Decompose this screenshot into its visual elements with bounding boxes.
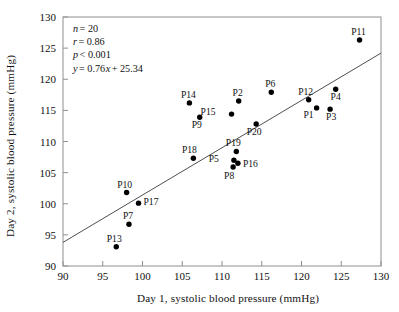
- data-point-label: P10: [117, 179, 132, 190]
- data-point-label: P17: [144, 196, 159, 207]
- data-point-label: P13: [107, 233, 122, 244]
- data-point-label: P7: [123, 210, 133, 221]
- data-point-label: P15: [201, 106, 216, 117]
- data-point-marker: [314, 105, 319, 110]
- y-tick-label: 125: [40, 42, 57, 54]
- data-point: P20: [247, 121, 262, 137]
- data-point: P10: [117, 179, 132, 196]
- data-point-label: P11: [351, 26, 366, 37]
- data-point-marker: [306, 97, 311, 102]
- data-point: P8: [224, 164, 236, 181]
- y-tick-label: 110: [40, 136, 57, 148]
- data-point-label: P19: [226, 137, 241, 148]
- x-tick-label: 125: [333, 270, 350, 282]
- data-point-label: P20: [247, 126, 262, 137]
- data-point-label: P14: [181, 89, 196, 100]
- y-tick-label: 95: [45, 229, 57, 241]
- x-tick-label: 115: [254, 270, 271, 282]
- scatter-plot-figure: 9095100105110115120125130 90951001051101…: [0, 0, 399, 312]
- x-tick-label: 90: [58, 270, 70, 282]
- x-tick-label: 130: [373, 270, 390, 282]
- data-point: P2: [233, 87, 243, 104]
- data-point: P4: [331, 87, 341, 103]
- data-point: P1: [304, 105, 320, 120]
- x-tick-label: 100: [134, 270, 151, 282]
- stat-equation: y= 0.76x+ 25.34: [72, 63, 143, 74]
- y-tick-label: 120: [40, 73, 57, 85]
- stat-r: r= 0.86: [73, 36, 105, 47]
- data-point-label: P16: [243, 158, 258, 169]
- y-tick-label: 100: [40, 198, 57, 210]
- stat-n: n= 20: [73, 23, 98, 34]
- data-point-marker: [269, 90, 274, 95]
- data-point-marker: [236, 98, 241, 103]
- data-point-marker: [357, 37, 362, 42]
- data-point: P15: [201, 106, 235, 117]
- y-tick-label: 115: [40, 104, 57, 116]
- y-tick-label: 130: [40, 11, 57, 23]
- y-tick-label: 105: [40, 167, 57, 179]
- data-point: P14: [181, 89, 196, 106]
- data-point-marker: [124, 190, 129, 195]
- data-point: P18: [182, 144, 197, 161]
- data-point-label: P3: [326, 111, 336, 122]
- plot-canvas: 9095100105110115120125130 90951001051101…: [0, 0, 399, 312]
- data-point-label: P5: [209, 153, 219, 164]
- data-point-marker: [126, 222, 131, 227]
- x-tick-label: 110: [214, 270, 231, 282]
- y-tick-label: 90: [45, 260, 57, 272]
- x-tick-label: 120: [293, 270, 310, 282]
- x-tick-label: 95: [97, 270, 109, 282]
- data-point-marker: [136, 200, 141, 205]
- data-point: P12: [298, 86, 313, 103]
- x-axis-title: Day 1, systolic blood pressure (mmHg): [137, 292, 319, 305]
- data-point-marker: [230, 164, 235, 169]
- data-point-label: P9: [192, 119, 202, 130]
- data-point-marker: [187, 100, 192, 105]
- x-tick-label: 105: [174, 270, 191, 282]
- stat-p: p< 0.001: [72, 49, 111, 60]
- data-point: P16: [235, 158, 258, 169]
- data-point-label: P12: [298, 86, 313, 97]
- statistics-annotation: n= 20r= 0.86p< 0.001y= 0.76x+ 25.34: [72, 23, 143, 74]
- data-point-label: P4: [331, 91, 341, 102]
- data-point: P13: [107, 233, 122, 250]
- data-point: P7: [123, 210, 133, 227]
- data-point-label: P6: [265, 78, 275, 89]
- data-point-marker: [235, 161, 240, 166]
- data-point-label: P18: [182, 144, 197, 155]
- x-axis-tick-labels: 9095100105110115120125130: [58, 270, 390, 282]
- data-point: P11: [351, 26, 366, 43]
- data-point-label: P1: [304, 109, 314, 120]
- data-point: P5: [209, 153, 237, 164]
- y-axis-tick-labels: 9095100105110115120125130: [40, 11, 57, 272]
- data-point: P6: [265, 78, 275, 95]
- data-point: P3: [326, 106, 336, 122]
- data-point-label: P8: [224, 170, 234, 181]
- y-axis-title: Day 2, systolic blood pressure (mmHg): [4, 55, 17, 237]
- regression-line: [63, 53, 381, 242]
- data-points: P1P2P3P4P5P6P7P8P9P10P11P12P13P14P15P16P…: [107, 26, 366, 249]
- data-point-label: P2: [233, 87, 243, 98]
- data-point-marker: [234, 149, 239, 154]
- data-point-marker: [229, 111, 234, 116]
- data-point: P19: [226, 137, 241, 154]
- data-point-marker: [114, 244, 119, 249]
- data-point-marker: [191, 156, 196, 161]
- data-point: P17: [136, 196, 159, 207]
